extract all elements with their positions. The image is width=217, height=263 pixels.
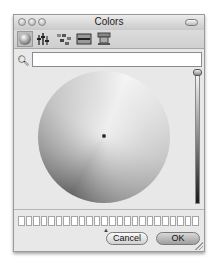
color-swatch[interactable] bbox=[192, 216, 199, 226]
color-swatch[interactable] bbox=[117, 216, 124, 226]
resize-grip[interactable] bbox=[195, 242, 203, 250]
color-palettes-tab[interactable] bbox=[56, 31, 72, 47]
color-swatch[interactable] bbox=[132, 216, 139, 226]
window-title: Colors bbox=[14, 16, 204, 27]
cancel-button[interactable]: Cancel bbox=[106, 232, 148, 245]
color-wheel-tab[interactable] bbox=[17, 31, 33, 47]
crayons-icon bbox=[96, 31, 112, 47]
ok-button[interactable]: OK bbox=[156, 232, 200, 245]
color-swatch[interactable] bbox=[124, 216, 131, 226]
swatch-bar[interactable] bbox=[18, 216, 200, 226]
color-swatch[interactable] bbox=[18, 216, 25, 226]
color-wheel-cursor[interactable] bbox=[102, 134, 106, 138]
colors-window: Colors 🔍︎ ▲ Cancel OK bbox=[13, 14, 205, 252]
search-bar: 🔍︎ bbox=[15, 52, 203, 68]
color-wheel-icon bbox=[18, 32, 32, 46]
brightness-slider[interactable] bbox=[195, 74, 200, 204]
color-swatch[interactable] bbox=[147, 216, 154, 226]
title-bar[interactable]: Colors bbox=[14, 15, 204, 31]
color-swatch[interactable] bbox=[94, 216, 101, 226]
crayons-tab[interactable] bbox=[96, 31, 112, 47]
color-swatch[interactable] bbox=[41, 216, 48, 226]
color-swatch[interactable] bbox=[154, 216, 161, 226]
color-swatch[interactable] bbox=[101, 216, 108, 226]
color-swatch[interactable] bbox=[139, 216, 146, 226]
color-swatch[interactable] bbox=[177, 216, 184, 226]
color-swatch[interactable] bbox=[185, 216, 192, 226]
color-swatch[interactable] bbox=[56, 216, 63, 226]
color-swatch[interactable] bbox=[162, 216, 169, 226]
color-swatch[interactable] bbox=[48, 216, 55, 226]
image-palette-icon bbox=[76, 31, 92, 47]
brightness-slider-knob[interactable] bbox=[193, 69, 202, 76]
palettes-icon bbox=[56, 31, 72, 47]
color-swatch[interactable] bbox=[109, 216, 116, 226]
image-palettes-tab[interactable] bbox=[76, 31, 92, 47]
color-swatch[interactable] bbox=[79, 216, 86, 226]
mode-toolbar bbox=[14, 30, 204, 49]
color-swatch[interactable] bbox=[63, 216, 70, 226]
color-swatch[interactable] bbox=[170, 216, 177, 226]
color-search-input[interactable] bbox=[32, 52, 202, 67]
color-swatch[interactable] bbox=[33, 216, 40, 226]
toolbar-toggle-button[interactable] bbox=[185, 19, 198, 26]
magnifier-icon: 🔍︎ bbox=[17, 55, 30, 66]
divider bbox=[14, 209, 204, 210]
color-swatch[interactable] bbox=[86, 216, 93, 226]
color-sliders-tab[interactable] bbox=[36, 31, 52, 47]
color-swatch[interactable] bbox=[26, 216, 33, 226]
color-swatch[interactable] bbox=[71, 216, 78, 226]
sliders-icon bbox=[36, 31, 52, 47]
